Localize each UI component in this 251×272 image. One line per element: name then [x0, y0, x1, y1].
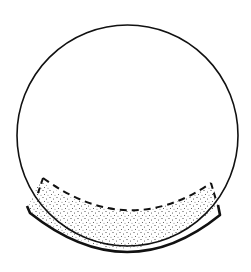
diagram-canvas: [0, 0, 251, 272]
stippled-layer: [27, 181, 218, 249]
sphere-diagram: [0, 0, 251, 272]
